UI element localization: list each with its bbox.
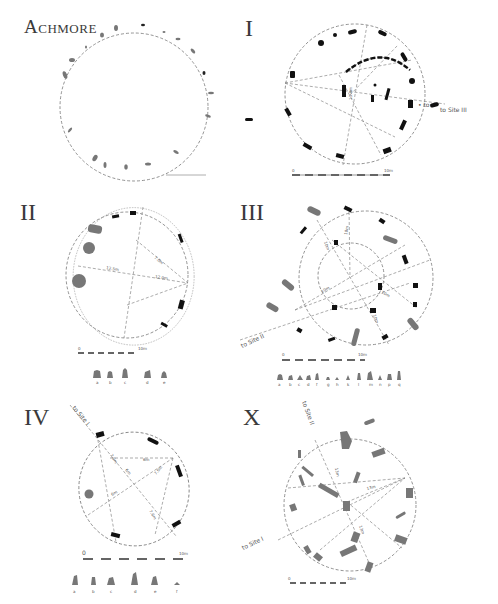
svg-text:10m: 10m [343, 225, 350, 235]
svg-text:12.5m: 12.5m [106, 265, 120, 272]
stone-circle-plan: 12.5m 12.0m 7.0m 0 10m a b c d e [0, 190, 240, 390]
radius-label: 13.4m [348, 87, 353, 100]
svg-text:f: f [316, 382, 318, 387]
svg-text:0: 0 [82, 549, 86, 556]
annotation-to-site-3: • to [418, 101, 430, 108]
svg-text:e: e [163, 380, 166, 385]
stone-circle-plan: 7.6m 6m 6m 7.6m 6m 7.6m to Site I 0 10m … [0, 390, 240, 604]
svg-text:10m: 10m [381, 290, 391, 299]
annotation-to-site-1: to Site I [240, 535, 264, 551]
svg-text:10m: 10m [384, 168, 393, 173]
annotation-to-site-3-label: to Site III [440, 106, 467, 113]
svg-text:10m: 10m [372, 314, 380, 324]
svg-text:0: 0 [78, 346, 81, 351]
stone-elevations [72, 572, 180, 585]
svg-text:6m: 6m [143, 457, 150, 462]
annotation-to-site-2: to Site II [301, 400, 316, 426]
svg-text:c: c [110, 589, 112, 594]
svg-text:13m: 13m [334, 467, 341, 477]
svg-text:13m: 13m [366, 484, 376, 491]
stone-circle-plan: 10m 10m 10m 10m 10m to Site II 0 10m a b… [240, 190, 498, 390]
svg-text:b: b [109, 380, 112, 385]
svg-text:b: b [289, 382, 292, 387]
svg-text:b: b [92, 589, 95, 594]
svg-text:k: k [347, 382, 350, 387]
stone-circle-plan: 13.4m • to to Site III 0 10m [240, 0, 498, 190]
annotation-to-site-2: to Site II [239, 332, 265, 349]
svg-text:e: e [154, 589, 157, 594]
svg-text:10m: 10m [138, 346, 147, 351]
svg-text:10m: 10m [320, 285, 330, 294]
svg-text:g: g [327, 382, 330, 387]
svg-text:f: f [176, 589, 178, 594]
svg-text:h: h [336, 382, 339, 387]
svg-text:7.0m: 7.0m [153, 255, 164, 265]
panel-site-3: III [240, 190, 498, 390]
svg-text:12.0m: 12.0m [155, 274, 168, 281]
svg-text:c: c [298, 382, 300, 387]
annotation-to-site-1: to Site I [71, 404, 91, 426]
svg-text:l: l [358, 382, 359, 387]
svg-text:n: n [379, 382, 382, 387]
svg-text:10m: 10m [179, 551, 188, 556]
stone-elevations [277, 371, 401, 380]
stone-circle-plan [0, 0, 240, 190]
svg-text:d: d [146, 380, 149, 385]
svg-text:0: 0 [288, 576, 291, 581]
svg-text:c: c [124, 380, 126, 385]
svg-text:a: a [278, 382, 281, 387]
svg-text:0: 0 [282, 352, 285, 357]
svg-text:6m: 6m [124, 467, 132, 475]
svg-text:7.6m: 7.6m [148, 509, 158, 520]
svg-text:6m: 6m [110, 489, 118, 497]
svg-text:7.6m: 7.6m [109, 453, 119, 464]
svg-text:a: a [73, 589, 76, 594]
panel-site-10: X 13m 13m 13m [240, 390, 498, 604]
svg-text:10m: 10m [358, 352, 367, 357]
svg-text:q: q [398, 382, 401, 387]
svg-text:a: a [96, 380, 99, 385]
svg-text:m: m [369, 382, 373, 387]
svg-text:p: p [388, 382, 391, 387]
svg-text:d: d [307, 382, 310, 387]
panel-site-2: II 12.5m 12.0m 7.0m 0 10m a [0, 190, 240, 390]
svg-text:7.6m: 7.6m [153, 464, 163, 475]
panel-site-1: I [240, 0, 498, 190]
panel-achmore: Achmore [0, 0, 240, 190]
svg-text:0: 0 [292, 168, 295, 173]
stone-circle-plan: 13m 13m 13m to Site II to Site I 0 10m [240, 390, 498, 604]
svg-text:10m: 10m [347, 576, 356, 581]
svg-text:d: d [134, 589, 137, 594]
panel-site-4: IV 7.6m 6m 6m 7.6m 6m 7.6m to Site I 0 1… [0, 390, 240, 604]
stone-elevations [93, 368, 167, 378]
